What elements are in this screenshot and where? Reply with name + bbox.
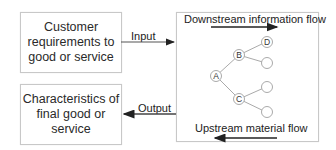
tree-node-c-child-1: [262, 82, 273, 93]
svg-text:A: A: [213, 71, 219, 81]
tree-node-d: D: [262, 37, 273, 48]
tree-node-b-child: [262, 58, 273, 69]
tree-node-c: C: [234, 94, 245, 105]
diagram-graphics: A B C D: [0, 0, 336, 150]
svg-text:C: C: [236, 94, 242, 104]
tree-node-b: B: [234, 50, 245, 61]
svg-text:D: D: [264, 37, 270, 47]
svg-text:B: B: [236, 50, 242, 60]
tree-node-c-child-2: [262, 107, 273, 118]
tree-node-a: A: [211, 71, 222, 82]
